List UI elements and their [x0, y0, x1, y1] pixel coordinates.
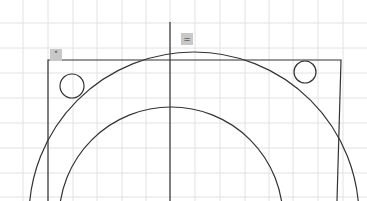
small-circle-left[interactable]	[60, 74, 84, 98]
grid	[0, 0, 367, 201]
equal-icon: =	[181, 33, 193, 45]
outer-arc[interactable]	[29, 52, 359, 201]
inner-arc[interactable]	[59, 107, 283, 201]
corner-grip-marker[interactable]: ˂	[50, 49, 62, 61]
midpoint-grip-marker[interactable]: =	[181, 33, 193, 45]
small-circle-right[interactable]	[294, 61, 316, 83]
arrow-icon: ˂	[50, 49, 62, 61]
drawing-canvas[interactable]: ˂ =	[0, 0, 367, 201]
cad-drawing	[0, 0, 367, 201]
